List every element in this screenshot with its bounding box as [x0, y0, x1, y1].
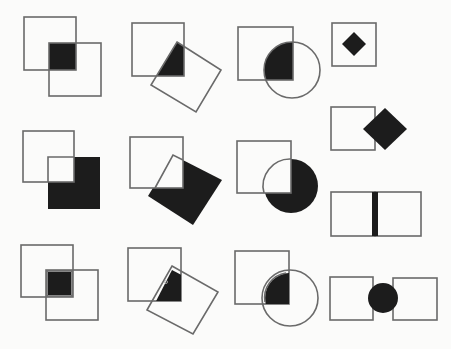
figure-r4c4: [330, 277, 437, 320]
figure-r2c1: [23, 131, 100, 209]
figure-r2c4: [331, 107, 407, 150]
figure-r3c4: [331, 192, 421, 236]
figure-r3c1: [21, 245, 98, 320]
shapes-diagram: [0, 0, 451, 349]
figure-r2c3: [237, 141, 318, 213]
figure-r1c1: [24, 17, 101, 96]
figure-r3c3: [235, 251, 318, 326]
figure-r1c3: [238, 27, 320, 98]
diagram-canvas: [0, 0, 451, 349]
figure-r3c2: [128, 248, 218, 334]
figure-r1c2: [132, 23, 221, 112]
figure-r2c2: [130, 137, 222, 225]
figure-r1c4: [332, 23, 376, 66]
